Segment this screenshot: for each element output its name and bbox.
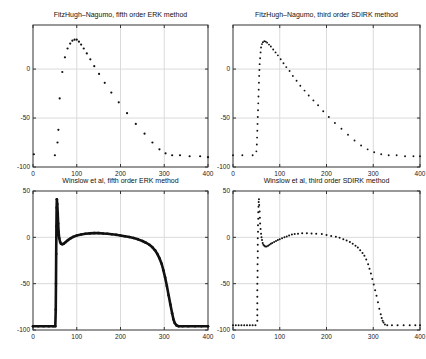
data-point-marker [207,156,209,158]
data-point-marker [257,123,259,125]
data-point-marker [357,247,359,249]
data-point-marker [299,85,301,87]
data-point-marker [261,239,263,241]
x-tick-label: 0 [31,170,35,177]
data-point-marker [80,233,83,236]
data-point-marker [61,71,63,73]
data-point-marker [110,91,112,93]
data-point-marker [181,325,184,328]
data-point-marker [419,324,421,326]
tick-labels: 0100200300400500-50-100 [217,187,426,340]
data-point-marker [164,152,166,154]
data-point-marker [62,243,65,246]
data-point-marker [148,243,151,246]
data-point-marker [352,243,354,245]
data-point-marker [37,325,40,328]
data-point-marker [256,314,258,316]
data-point-marker [260,47,262,49]
data-point-marker [164,276,167,279]
y-tick-label: -50 [221,114,231,121]
x-tick-label: 100 [71,170,82,177]
data-point-marker [256,302,258,304]
data-point-marker [177,325,180,328]
y-tick-label: -100 [217,326,230,333]
data-point-marker [311,232,313,234]
data-point-marker [354,245,356,247]
data-point-marker [59,97,61,99]
data-point-marker [312,99,314,101]
data-point-marker [207,325,210,328]
data-point-marker [256,130,258,132]
data-point-marker [359,249,361,251]
data-point-marker [294,233,296,235]
x-tick-label: 0 [31,333,35,340]
data-point-marker [156,253,159,256]
data-point-marker [273,241,275,243]
data-point-marker [257,206,259,208]
data-point-marker [179,154,181,156]
data-point-marker [280,58,282,60]
data-point-marker [55,282,58,285]
data-point-marker [259,217,261,219]
data-point-marker [367,263,369,265]
data-point-marker [257,244,259,246]
data-point-marker [258,75,260,77]
data-point-marker [102,232,105,235]
x-tick-label: 0 [231,170,235,177]
data-point-marker [32,325,35,328]
data-point-marker [54,154,56,156]
data-point-marker [261,236,263,238]
data-point-marker [369,268,371,270]
data-point-marker [296,80,298,82]
subplot-winslow-sdirk: 0100200300400500-50-100 [217,187,426,340]
data-point-marker [257,257,259,259]
data-point-marker [132,237,135,240]
data-point-marker [238,324,240,326]
data-point-marker [98,73,100,75]
data-point-marker [47,325,50,328]
data-point-marker [257,102,259,104]
data-point-marker [258,69,260,71]
x-tick-label: 200 [321,170,332,177]
data-point-marker [78,41,80,43]
x-tick-label: 300 [159,333,170,340]
data-point-marker [166,285,169,288]
data-point-marker [257,270,259,272]
tick-labels: 0100200300400500-50-100 [17,187,214,340]
grid-lines [233,25,420,167]
data-point-marker [56,141,58,143]
data-point-marker [124,235,127,238]
data-point-marker [373,284,375,286]
data-point-marker [396,154,398,156]
data-point-marker [257,109,259,111]
data-point-marker [72,236,75,239]
data-point-marker [413,155,415,157]
data-point-marker [374,289,376,291]
x-tick-label: 300 [368,170,379,177]
data-point-marker [328,116,330,118]
subplot-fhn-sdirk: 01002003004000-50-100 [217,25,426,177]
data-point-marker [118,101,120,103]
data-point-marker [404,155,406,157]
data-point-marker [377,301,379,303]
data-point-marker [291,234,293,236]
data-point-marker [378,308,380,310]
data-point-marker [349,241,351,243]
grid-lines [33,25,208,167]
data-point-marker [380,153,382,155]
matlab-figure: FitzHugh–Nagumo, fifth order ERK method … [0,0,426,359]
data-point-marker [275,240,277,242]
data-point-marker [115,234,118,237]
data-point-marker [75,234,78,237]
data-point-marker [246,324,248,326]
data-point-marker [271,242,273,244]
data-point-marker [371,278,373,280]
data-point-marker [126,112,128,114]
data-point-marker [54,308,57,311]
data-point-marker [69,43,71,45]
data-point-marker [391,324,393,326]
data-point-marker [260,233,262,235]
data-point-marker [55,253,58,256]
data-point-marker [301,232,303,234]
grid-lines [233,191,420,330]
